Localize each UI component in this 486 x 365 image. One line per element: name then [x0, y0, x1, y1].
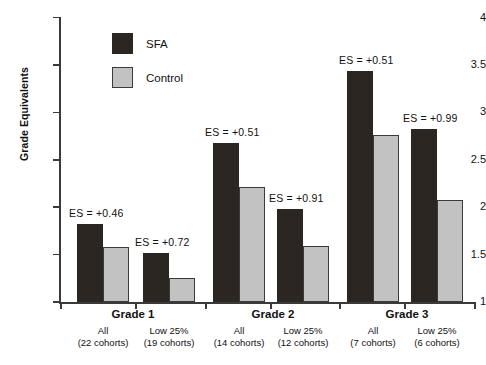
bar-sfa — [77, 224, 103, 302]
bar-control — [303, 246, 329, 302]
es-annotation: ES = +0.99 — [403, 112, 458, 124]
y-tick-mark — [53, 17, 60, 19]
y-tick-label: 3.5 — [438, 58, 486, 70]
bar-group-cohorts: (22 cohorts) — [78, 337, 129, 348]
bar-group-sub: All — [234, 325, 245, 336]
bar-group-label: Low 25%(6 cohorts) — [392, 325, 482, 348]
legend-label-sfa: SFA — [146, 38, 168, 50]
x-separator-tick — [205, 302, 207, 309]
es-annotation: ES = +0.46 — [69, 207, 124, 219]
y-tick-label: 4 — [438, 11, 486, 23]
y-axis-title: Grade Equivalents — [18, 44, 30, 184]
bar-sfa — [411, 129, 437, 302]
legend-item-control: Control — [112, 67, 183, 88]
es-annotation: ES = +0.91 — [269, 192, 324, 204]
legend-label-control: Control — [146, 72, 183, 84]
y-tick-mark — [53, 159, 60, 161]
legend-swatch-sfa — [112, 33, 133, 54]
bar-group-sub: Low 25% — [417, 325, 456, 336]
group-title: Grade 2 — [213, 308, 333, 320]
bar-control — [169, 278, 195, 302]
bar-control — [239, 187, 265, 302]
bar-control — [437, 200, 463, 302]
bar-group-cohorts: (12 cohorts) — [278, 337, 329, 348]
bar-group-sub: Low 25% — [283, 325, 322, 336]
es-annotation: ES = +0.51 — [339, 54, 394, 66]
y-tick-mark — [53, 206, 60, 208]
bar-sfa — [143, 253, 169, 302]
x-separator-tick — [474, 302, 476, 309]
bar-control — [103, 247, 129, 302]
group-title: Grade 1 — [73, 308, 193, 320]
legend-item-sfa: SFA — [112, 33, 183, 54]
bar-group-cohorts: (19 cohorts) — [144, 337, 195, 348]
bar-control — [373, 135, 399, 302]
bar-sfa — [213, 143, 239, 302]
bar-group-sub: All — [368, 325, 379, 336]
y-tick-mark — [53, 301, 60, 303]
bar-group-sub: All — [98, 325, 109, 336]
bar-group-cohorts: (6 cohorts) — [414, 337, 459, 348]
legend-swatch-control — [112, 67, 133, 88]
bar-group-cohorts: (14 cohorts) — [214, 337, 265, 348]
bar-group-cohorts: (7 cohorts) — [350, 337, 395, 348]
bar-sfa — [347, 71, 373, 302]
x-separator-tick — [339, 302, 341, 309]
bar-sfa — [277, 209, 303, 302]
es-annotation: ES = +0.72 — [135, 236, 190, 248]
group-title: Grade 3 — [347, 308, 467, 320]
bar-group-sub: Low 25% — [149, 325, 188, 336]
x-axis-line — [59, 302, 475, 304]
legend: SFA Control — [112, 33, 183, 101]
y-tick-mark — [53, 64, 60, 66]
y-tick-label: 2.5 — [438, 153, 486, 165]
es-annotation: ES = +0.51 — [205, 126, 260, 138]
x-separator-tick — [60, 302, 62, 309]
y-tick-mark — [53, 112, 60, 114]
bar-chart-figure: Grade Equivalents 11.522.533.54 SFA Cont… — [0, 0, 486, 365]
y-tick-mark — [53, 254, 60, 256]
